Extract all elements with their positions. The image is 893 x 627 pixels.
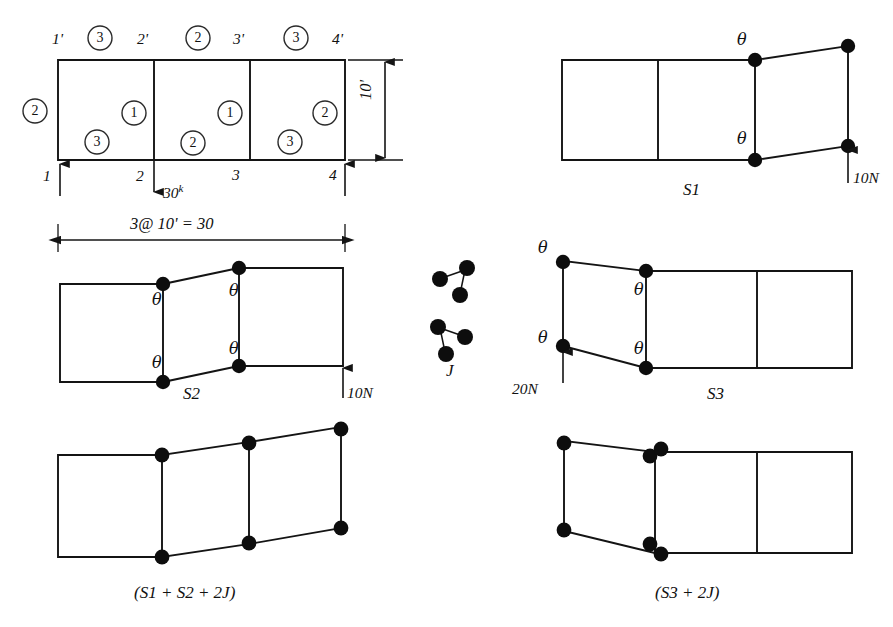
theta-label-s3-br: θ <box>634 341 644 357</box>
joint-dot <box>432 271 448 287</box>
badge-label-left: 2 <box>28 104 42 118</box>
dim-span-label: 3@ 10' = 30 <box>130 216 213 233</box>
joint-dot <box>155 448 170 463</box>
joint-dot <box>654 547 669 562</box>
point-load-label: 30k <box>163 183 183 201</box>
figure-root: 1' 2' 3' 4' 1 2 3 4 3 2 3 2 1 1 2 3 2 3 … <box>0 0 893 627</box>
node-label-1-prime: 1' <box>52 31 63 47</box>
node-label-2: 2 <box>136 168 144 184</box>
joint-dot <box>556 339 570 353</box>
badge-label-low-2: 2 <box>186 136 200 150</box>
theta-label-s1-top: θ <box>737 32 747 48</box>
joint-dot <box>430 319 446 335</box>
badge-label-top-3: 3 <box>289 31 303 45</box>
theta-label-s2-br: θ <box>229 341 239 357</box>
badge-label-right: 2 <box>318 106 332 120</box>
badge-label-low-3: 3 <box>283 135 297 149</box>
diagram-vector-layer <box>0 0 893 627</box>
case-label-s3: S3 <box>707 385 724 402</box>
panel-case-j <box>430 260 475 362</box>
joint-dot <box>557 436 572 451</box>
joint-dot <box>654 442 669 457</box>
joint-dot <box>232 359 246 373</box>
case-label-s2: S2 <box>183 385 200 402</box>
joint-dot <box>156 375 170 389</box>
theta-label-s3-bl: θ <box>538 330 548 346</box>
theta-label-s3-tl: θ <box>538 240 548 256</box>
node-label-3: 3 <box>232 167 240 183</box>
joint-dot <box>242 536 257 551</box>
node-label-2-prime: 2' <box>137 31 148 47</box>
joint-dot <box>452 287 468 303</box>
joint-dot <box>334 521 349 536</box>
theta-label-s2-bl: θ <box>152 355 162 371</box>
case-label-j: J <box>446 362 454 379</box>
panel-case-sum-left <box>58 422 348 565</box>
joint-dot <box>155 550 170 565</box>
node-label-3-prime: 3' <box>233 31 244 47</box>
joint-dot <box>639 264 653 278</box>
joint-dot <box>643 537 658 552</box>
node-label-4-prime: 4' <box>332 31 343 47</box>
reaction-label-s1: 10N <box>853 170 879 186</box>
theta-label-s1-bottom: θ <box>737 131 747 147</box>
theta-label-s2-tr: θ <box>229 283 239 299</box>
joint-dot <box>232 261 246 275</box>
joint-dot <box>457 329 473 345</box>
theta-label-s2-tl: θ <box>152 292 162 308</box>
joint-dot <box>557 523 572 538</box>
badge-label-top-1: 3 <box>93 31 107 45</box>
joint-dot <box>242 436 257 451</box>
joint-dot <box>459 260 475 276</box>
badge-label-top-2: 2 <box>191 31 205 45</box>
panel-case-s2 <box>60 261 343 398</box>
joint-dot <box>748 53 762 67</box>
panel-case-s1 <box>562 39 855 183</box>
badge-label-mid-upper-1: 1 <box>127 106 141 120</box>
node-label-1: 1 <box>43 168 51 184</box>
joint-dot <box>841 39 855 53</box>
case-label-s1: S1 <box>683 181 700 198</box>
point-load-unit: k <box>179 182 184 194</box>
joint-dot <box>639 361 653 375</box>
badge-label-low-1: 3 <box>90 135 104 149</box>
joint-dot <box>438 346 454 362</box>
point-load-value: 30 <box>163 184 179 201</box>
case-label-sum-left: (S1 + S2 + 2J) <box>134 584 235 601</box>
joint-dot <box>334 422 349 437</box>
reaction-label-s2: 10N <box>347 385 373 401</box>
joint-dot <box>556 255 570 269</box>
joint-dot <box>748 153 762 167</box>
badge-label-mid-upper-2: 1 <box>223 106 237 120</box>
dim-height-label: 10' <box>358 80 375 100</box>
panel-case-s3 <box>556 255 852 383</box>
case-label-sum-right: (S3 + 2J) <box>655 584 719 601</box>
panel-case-sum-right <box>557 436 852 562</box>
node-label-4: 4 <box>329 167 337 183</box>
reaction-label-s3: 20N <box>512 381 538 397</box>
theta-label-s3-tr: θ <box>634 282 644 298</box>
